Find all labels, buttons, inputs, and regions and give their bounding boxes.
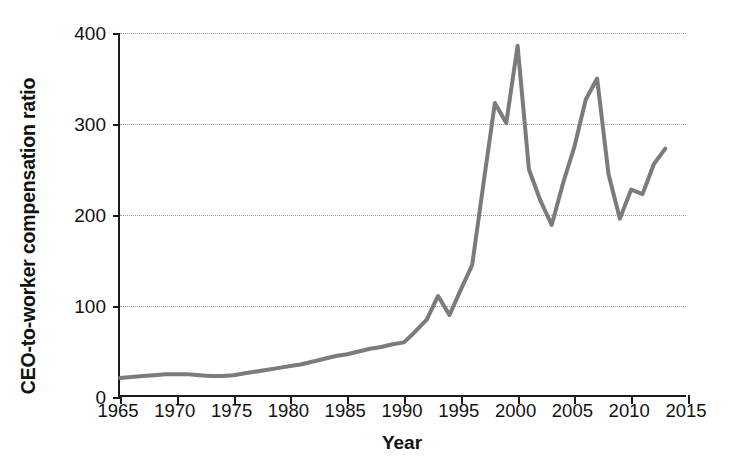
y-tick-label-100: 100 — [26, 297, 106, 316]
y-tick-0 — [113, 397, 120, 399]
y-tick-label-300: 300 — [26, 115, 106, 134]
x-tick-label-2015: 2015 — [651, 402, 721, 421]
x-axis-title: Year — [118, 432, 686, 454]
y-tick-100 — [113, 306, 120, 308]
y-tick-label-200: 200 — [26, 206, 106, 225]
series-line-ceo-to-worker-ratio — [120, 46, 665, 378]
y-tick-200 — [113, 215, 120, 217]
chart-page: CEO-to-worker compensation ratio Year 01… — [0, 0, 733, 472]
plot-area — [118, 33, 686, 397]
y-tick-300 — [113, 124, 120, 126]
line-series-svg — [120, 33, 688, 397]
y-tick-label-400: 400 — [26, 24, 106, 43]
y-tick-400 — [113, 33, 120, 35]
